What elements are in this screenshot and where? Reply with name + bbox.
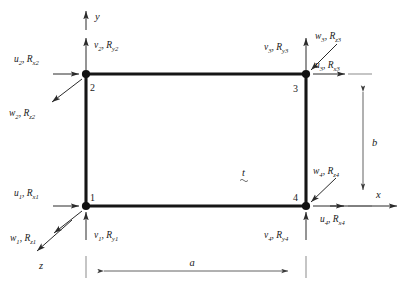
dimension-a-label: a [189, 257, 194, 268]
node-2-marker [82, 70, 90, 78]
node-2-number: 2 [90, 82, 95, 93]
node-1-number: 1 [90, 192, 95, 203]
diagram-canvas: y x z u2, Rx2 v2, Ry2 w2, Rz2 2 v3, Ry3 … [0, 0, 400, 291]
diagram-background [0, 0, 400, 291]
node-4-marker [302, 202, 310, 210]
dimension-b-label: b [372, 137, 377, 148]
y-axis-label: y [94, 11, 100, 22]
z-axis-label: z [38, 260, 43, 271]
plane-element-diagram: y x z u2, Rx2 v2, Ry2 w2, Rz2 2 v3, Ry3 … [0, 0, 400, 291]
node-4-number: 4 [293, 192, 298, 203]
x-axis-label: x [375, 189, 381, 200]
node-1-marker [82, 202, 90, 210]
node-3-number: 3 [293, 83, 298, 94]
node-3-marker [302, 70, 310, 78]
